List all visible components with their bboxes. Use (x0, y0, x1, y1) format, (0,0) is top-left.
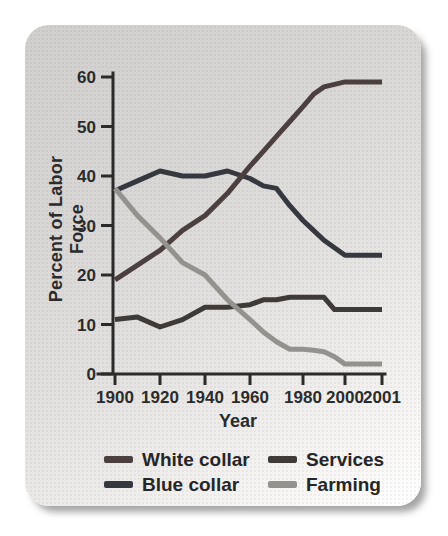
y-tick-label: 60 (77, 68, 96, 87)
y-tick-label: 50 (77, 118, 96, 137)
x-tick-label: 1980 (284, 388, 322, 407)
x-tick-label: 1960 (231, 388, 269, 407)
white-collar-swatch (104, 456, 133, 463)
y-tick-label: 0 (87, 365, 96, 384)
x-tick-label: 1940 (186, 388, 224, 407)
x-tick-label: 2000 (326, 388, 364, 407)
legend: White collar Services Blue collar Farmin… (104, 447, 384, 496)
y-axis-title: Percent of Labor Force (46, 129, 68, 329)
legend-item-blue-collar: Blue collar (104, 472, 268, 496)
services-swatch (268, 456, 297, 463)
blue-collar-swatch (104, 481, 133, 488)
legend-item-white-collar: White collar (104, 447, 268, 471)
axes (98, 73, 385, 374)
y-tick-label: 10 (77, 316, 96, 335)
x-tick-label: 1920 (141, 388, 179, 407)
farming-line (115, 188, 382, 364)
page: 0102030405060190019201940196019802000200… (0, 0, 448, 536)
legend-label-services: Services (306, 450, 384, 469)
services-line (115, 297, 382, 327)
x-tick-label: 2001 (363, 388, 401, 407)
y-tick-label: 40 (77, 167, 96, 186)
legend-label-farming: Farming (306, 475, 381, 494)
blue-collar-line (115, 171, 382, 255)
x-tick-label: 1900 (96, 388, 134, 407)
legend-label-white-collar: White collar (142, 450, 250, 469)
legend-label-blue-collar: Blue collar (142, 475, 239, 494)
x-axis-title: Year (178, 411, 298, 432)
legend-item-services: Services (268, 447, 384, 471)
y-tick-label: 20 (77, 266, 96, 285)
farming-swatch (268, 481, 297, 488)
legend-item-farming: Farming (268, 472, 384, 496)
